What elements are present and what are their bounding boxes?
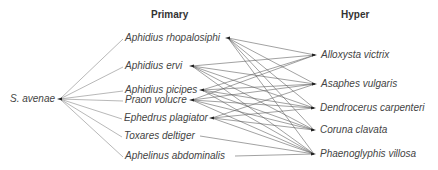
primary-to-hyper-edge [202, 90, 314, 108]
primary-to-hyper-edge [212, 118, 314, 130]
hyper-node-label: Coruna clavata [320, 124, 387, 136]
hyper-node-label: Dendrocerus carpenteri [320, 102, 425, 114]
primary-to-hyper-edge [192, 66, 315, 84]
primary-to-hyper-edge [228, 38, 314, 130]
primary-node-label: Aphelinus abdominalis [125, 150, 225, 162]
hyper-node-arrow-icon [311, 128, 316, 131]
host-to-primary-edge [60, 99, 123, 101]
host-to-primary-edge [60, 99, 123, 157]
hyper-node-arrow-icon [311, 106, 316, 109]
primary-node-arrow-icon [189, 64, 194, 67]
host-node-arrow-icon [57, 97, 62, 100]
primary-node-arrow-icon [209, 116, 214, 119]
primary-node-arrow-icon [199, 88, 204, 91]
primary-node-arrow-icon [189, 98, 194, 101]
primary-node-label: Aphidius ervi [125, 60, 182, 72]
primary-to-hyper-edge [192, 66, 314, 108]
host-to-primary-edge [60, 91, 123, 99]
primary-to-hyper-edge [192, 55, 315, 100]
hyper-node-arrow-icon [312, 82, 317, 85]
hyper-node-label: Asaphes vulgaris [321, 78, 397, 90]
host-to-primary-edge [60, 67, 123, 99]
primary-node-label: Ephedrus plagiator [124, 112, 208, 124]
primary-node-label: Aphidius rhopalosiphi [125, 32, 220, 44]
food-web-diagram: Primary Hyper S. avenae Aphidius rhopalo… [0, 0, 438, 170]
primary-column-header: Primary [151, 9, 188, 20]
host-node-label: S. avenae [10, 93, 55, 105]
primary-to-hyper-edge [228, 38, 315, 55]
primary-to-hyper-edge [235, 154, 314, 156]
primary-to-hyper-edge [228, 38, 315, 84]
hyper-node-label: Alloxysta victrix [321, 49, 389, 61]
hyper-node-arrow-icon [312, 53, 317, 56]
host-to-primary-edge [60, 99, 122, 137]
primary-node-arrow-icon [225, 36, 230, 39]
hyper-column-header: Hyper [341, 9, 369, 20]
primary-to-hyper-edge [192, 84, 315, 100]
primary-to-hyper-edge [212, 118, 314, 154]
host-to-primary-edge [60, 39, 123, 99]
primary-node-label: Toxares deltiger [124, 130, 195, 142]
primary-to-hyper-edge [192, 100, 314, 108]
primary-to-hyper-edge [202, 90, 314, 130]
primary-node-label: Praon volucre [125, 94, 187, 106]
host-to-primary-edge [60, 99, 122, 119]
primary-to-hyper-edge [202, 90, 314, 154]
hyper-node-label: Phaenoglyphis villosa [320, 148, 416, 160]
